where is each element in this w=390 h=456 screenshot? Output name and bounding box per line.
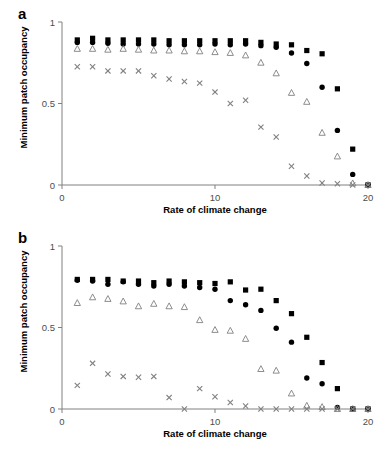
data-point [274, 45, 279, 50]
data-point [228, 400, 233, 405]
data-point [304, 98, 310, 104]
data-point [320, 51, 325, 56]
svg-text:20: 20 [363, 192, 374, 203]
data-point [350, 172, 355, 177]
svg-text:0.5: 0.5 [42, 98, 55, 109]
data-point [197, 285, 202, 290]
data-point [212, 89, 217, 94]
x-axis-label-b: Rate of climate change [62, 428, 368, 439]
data-point [319, 381, 324, 386]
data-point [335, 181, 340, 186]
data-point [151, 374, 156, 379]
data-point [273, 367, 279, 373]
data-point [197, 42, 202, 47]
series-open-triangle [74, 46, 371, 188]
data-point [166, 282, 171, 287]
data-point [227, 50, 233, 56]
svg-text:1: 1 [50, 241, 55, 252]
data-point [90, 64, 95, 69]
data-point [75, 64, 80, 69]
data-point [289, 50, 294, 55]
figure-container: a Minimum patch occupancy 00.5101020 Rat… [0, 0, 390, 456]
data-point [181, 48, 187, 54]
data-point [197, 48, 203, 54]
data-point [350, 147, 355, 152]
data-point [289, 164, 294, 169]
data-point [335, 128, 340, 133]
data-point [304, 173, 309, 178]
data-point [274, 326, 279, 331]
data-point [258, 366, 264, 372]
data-point [335, 386, 340, 391]
data-point [166, 47, 172, 53]
data-point [288, 390, 294, 396]
data-point [197, 81, 202, 86]
svg-text:0: 0 [59, 192, 64, 203]
data-point [182, 283, 187, 288]
data-point [105, 68, 110, 73]
data-point [319, 129, 325, 135]
data-point [212, 281, 217, 286]
data-point [319, 85, 324, 90]
data-point [197, 317, 203, 323]
data-point [121, 279, 126, 284]
scatter-plot-b: 00.5101020 [0, 228, 390, 428]
data-point [90, 278, 95, 283]
data-point [75, 40, 80, 45]
data-point [258, 59, 264, 65]
data-point [304, 375, 309, 380]
series-filled-circle [75, 40, 371, 188]
data-point [197, 280, 202, 285]
data-point [89, 294, 95, 300]
svg-text:0: 0 [59, 416, 64, 427]
data-point [121, 374, 126, 379]
data-point [90, 40, 95, 45]
data-point [212, 49, 218, 55]
panel-a: a Minimum patch occupancy 00.5101020 Rat… [0, 4, 390, 226]
data-point [151, 47, 157, 53]
data-point [243, 403, 248, 408]
data-point [167, 76, 172, 81]
svg-text:0: 0 [50, 404, 55, 415]
data-point [243, 41, 248, 46]
data-point [273, 70, 279, 76]
data-point [243, 98, 248, 103]
data-point [151, 41, 156, 46]
data-point [135, 303, 141, 309]
data-point [304, 335, 309, 340]
data-point [136, 68, 141, 73]
data-point [274, 298, 279, 303]
data-point [228, 42, 233, 47]
data-point [242, 52, 248, 58]
data-point [258, 43, 263, 48]
data-point [320, 360, 325, 365]
data-point [212, 327, 218, 333]
series-open-triangle [74, 294, 371, 412]
data-point [182, 42, 187, 47]
data-point [288, 90, 294, 96]
data-point [89, 46, 95, 52]
data-point [151, 283, 156, 288]
x-axis-label-a: Rate of climate change [62, 204, 368, 215]
data-point [274, 134, 279, 139]
data-point [228, 279, 233, 284]
data-point [74, 46, 80, 52]
data-point [120, 298, 126, 304]
data-point [197, 386, 202, 391]
svg-text:10: 10 [210, 192, 221, 203]
data-point [135, 46, 141, 52]
data-point [105, 282, 110, 287]
panel-b: b Minimum patch occupancy 00.5101020 Rat… [0, 228, 390, 450]
data-point [182, 79, 187, 84]
data-point [304, 48, 309, 53]
data-point [304, 61, 309, 66]
series-filled-square [75, 36, 371, 188]
data-point [90, 361, 95, 366]
data-point [167, 395, 172, 400]
data-point [243, 287, 248, 292]
svg-text:20: 20 [363, 416, 374, 427]
data-point [289, 42, 294, 47]
data-point [212, 41, 217, 46]
data-point [166, 303, 172, 309]
data-point [136, 375, 141, 380]
